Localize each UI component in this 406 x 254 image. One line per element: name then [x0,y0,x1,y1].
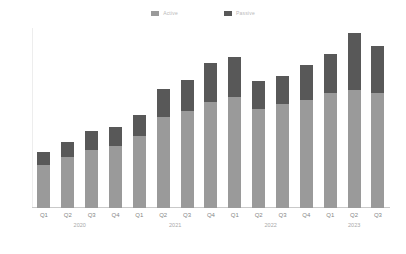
bar-column[interactable] [371,28,384,208]
bar-segment-passive[interactable] [181,80,194,111]
bar-column[interactable] [300,28,313,208]
bar-segment-active[interactable] [204,102,217,208]
bar-segment-active[interactable] [37,165,50,208]
bar-column[interactable] [348,28,361,208]
bar-segment-passive[interactable] [133,115,146,136]
bar-segment-passive[interactable] [324,54,337,93]
bar-segment-passive[interactable] [204,63,217,102]
bar-column[interactable] [37,28,50,208]
bar-column[interactable] [133,28,146,208]
plot-area [32,28,390,208]
bar-segment-passive[interactable] [348,33,361,90]
bar-segment-active[interactable] [181,111,194,208]
legend-swatch-icon [151,11,159,16]
bar-column[interactable] [157,28,170,208]
legend-label: Passive [236,10,255,16]
bar-segment-passive[interactable] [157,89,170,117]
bar-segment-active[interactable] [228,97,241,208]
bar-column[interactable] [204,28,217,208]
bar-column[interactable] [252,28,265,208]
bar-segment-passive[interactable] [85,131,98,150]
bar-column[interactable] [324,28,337,208]
bar-segment-passive[interactable] [228,57,241,97]
bar-segment-active[interactable] [348,90,361,208]
legend-item[interactable]: Active [151,10,178,16]
legend-label: Active [163,10,178,16]
chart-legend: ActivePassive [0,10,406,16]
bar-column[interactable] [85,28,98,208]
bar-group [32,28,390,208]
bar-segment-active[interactable] [371,93,384,208]
bar-segment-passive[interactable] [109,127,122,146]
legend-item[interactable]: Passive [224,10,255,16]
bar-segment-active[interactable] [109,146,122,208]
bar-column[interactable] [276,28,289,208]
bar-segment-passive[interactable] [252,81,265,109]
x-axis-year-label: 2021 [169,221,181,229]
legend-swatch-icon [224,11,232,16]
bar-segment-active[interactable] [276,104,289,208]
bar-column[interactable] [228,28,241,208]
bar-segment-passive[interactable] [276,76,289,104]
bar-segment-active[interactable] [133,136,146,208]
bar-column[interactable] [181,28,194,208]
x-axis-year-labels: 2020202120222023 [32,221,390,233]
bar-segment-passive[interactable] [300,65,313,100]
bar-segment-active[interactable] [300,100,313,208]
bar-column[interactable] [61,28,74,208]
bar-column[interactable] [109,28,122,208]
x-axis-year-label: 2022 [265,221,277,229]
bar-segment-passive[interactable] [61,142,74,157]
bar-segment-active[interactable] [157,117,170,208]
x-axis-year-label: 2020 [74,221,86,229]
stacked-bar-chart: ActivePassive Q1Q2Q3Q4Q1Q2Q3Q4Q1Q2Q3Q4Q1… [0,0,406,254]
bar-segment-active[interactable] [252,109,265,208]
bar-segment-active[interactable] [324,93,337,208]
bar-segment-active[interactable] [85,150,98,208]
x-axis-year-label: 2023 [348,221,360,229]
bar-segment-passive[interactable] [37,152,50,165]
bar-segment-active[interactable] [61,157,74,208]
bar-segment-passive[interactable] [371,46,384,93]
